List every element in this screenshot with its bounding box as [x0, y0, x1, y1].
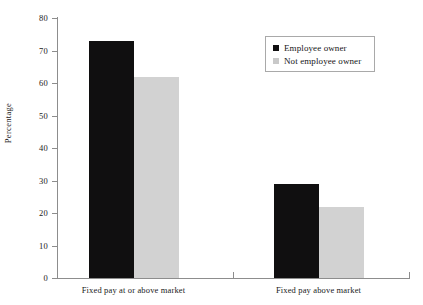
bar [134, 77, 179, 279]
legend-label: Not employee owner [284, 56, 361, 66]
y-axis-tick-label: 30 [8, 176, 48, 186]
y-axis-tick-label: 50 [8, 111, 48, 121]
y-axis-tick-label: 40 [8, 143, 48, 153]
y-axis-tick-label: 80 [8, 13, 48, 23]
legend-swatch-light-icon [273, 58, 279, 64]
y-axis-tick-label: 60 [8, 78, 48, 88]
bar [89, 41, 134, 278]
x-axis-category-label: Fixed pay at or above market [44, 285, 224, 295]
x-axis-category-label: Fixed pay above market [229, 285, 409, 295]
legend-item-not-employee-owner: Not employee owner [273, 54, 369, 67]
chart-legend: Employee owner Not employee owner [265, 36, 375, 72]
legend-swatch-dark-icon [273, 45, 279, 51]
legend-label: Employee owner [284, 43, 347, 53]
bar [319, 207, 364, 279]
bar [274, 184, 319, 278]
y-axis-tick-label: 20 [8, 208, 48, 218]
y-axis-tick-label: 70 [8, 46, 48, 56]
y-axis-tick-label: 0 [8, 273, 48, 283]
legend-item-employee-owner: Employee owner [273, 41, 369, 54]
y-axis-title: Percentage [3, 78, 13, 168]
bar-chart: Percentage 80706050403020100 Fixed pay a… [0, 0, 423, 305]
y-axis-tick-label: 10 [8, 241, 48, 251]
